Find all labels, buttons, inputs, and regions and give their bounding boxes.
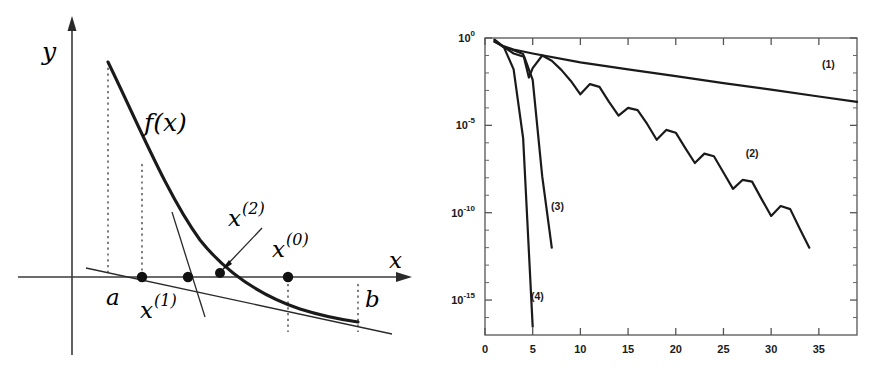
curve-label-3: (3) (551, 200, 564, 212)
label-x0: x (0) (272, 230, 309, 262)
curve-1 (495, 42, 857, 102)
x-tick-label: 35 (813, 343, 825, 355)
x-axis-label: x (389, 247, 402, 273)
label-x1: x (1) (140, 291, 177, 323)
label-a: a (106, 284, 120, 310)
figure-pair: y x f(x) x (0) x (1) x (2) a b (0, 0, 887, 368)
x-tick-label: 5 (530, 343, 536, 355)
curve-label-2: (2) (746, 147, 759, 159)
series-curves (495, 40, 857, 327)
y-axis (68, 16, 77, 355)
label-x2: x (2) (228, 199, 265, 231)
x-tick-label: 25 (717, 343, 729, 355)
x-tick-label: 20 (670, 343, 682, 355)
x-tick-label: 10 (574, 343, 586, 355)
convergence-chart-svg: 10010-510-1010-15 05101520253035 (1)(2)(… (440, 0, 887, 368)
x-tick-label: 0 (482, 343, 488, 355)
x-tick-label: 15 (622, 343, 634, 355)
label-x2-superscript: (2) (242, 199, 265, 218)
y-tick-label: 10-10 (451, 204, 475, 219)
function-curve (108, 62, 358, 322)
root-markers (137, 268, 293, 282)
label-x1-base: x (140, 297, 153, 323)
newton-method-svg: y x f(x) x (0) x (1) x (2) a b (0, 0, 440, 368)
curve-label-1: (1) (822, 58, 835, 70)
x2-leader-line (226, 228, 262, 266)
label-x0-superscript: (0) (286, 230, 309, 249)
y-tick-label: 100 (458, 29, 475, 44)
tangent-line-x1 (172, 212, 205, 317)
x-tick-label: 30 (765, 343, 777, 355)
x-axis (18, 272, 412, 282)
function-label: f(x) (142, 108, 187, 137)
marker-x1 (183, 272, 193, 282)
label-x1-superscript: (1) (154, 291, 177, 310)
label-x2-base: x (228, 205, 241, 231)
y-tick-label: 10-5 (456, 116, 476, 131)
marker-a (137, 272, 147, 282)
marker-x0 (283, 272, 293, 282)
label-x0-base: x (272, 236, 285, 262)
dashed-guide-lines (108, 62, 358, 332)
series-labels: (1)(2)(3)(4) (531, 58, 835, 302)
newton-method-figure: y x f(x) x (0) x (1) x (2) a b (0, 0, 440, 368)
marker-x2 (215, 268, 225, 278)
curve-label-4: (4) (531, 290, 544, 302)
y-axis-label: y (41, 37, 57, 66)
label-b: b (365, 286, 380, 312)
convergence-chart: 10010-510-1010-15 05101520253035 (1)(2)(… (440, 0, 887, 368)
y-tick-label: 10-15 (451, 291, 475, 306)
curve-4 (495, 40, 533, 326)
